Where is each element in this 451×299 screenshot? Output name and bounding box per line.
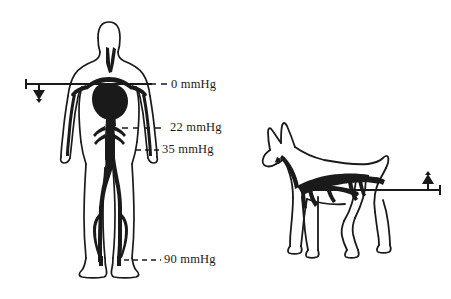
- pressure-label-90: 90 mmHg: [164, 253, 216, 266]
- pressure-label-0: 0 mmHg: [171, 78, 216, 91]
- pressure-label-22: 22 mmHg: [170, 121, 222, 134]
- figure-illustration: [0, 0, 451, 299]
- figure-root: 0 mmHg 22 mmHg 35 mmHg 90 mmHg: [0, 0, 451, 299]
- pressure-label-35: 35 mmHg: [162, 143, 214, 156]
